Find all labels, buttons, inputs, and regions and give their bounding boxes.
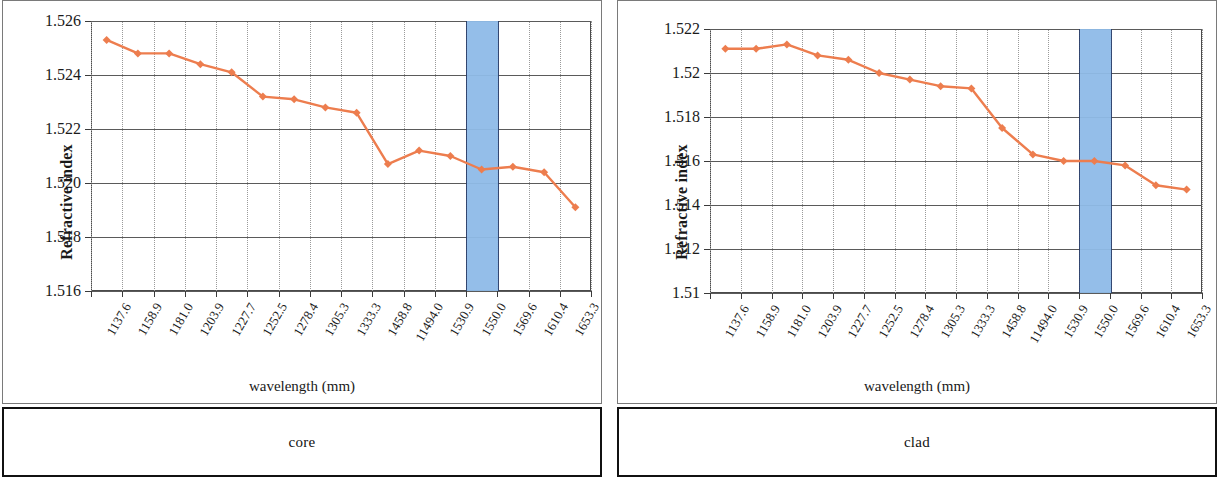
y-axis-tick-label: 1.518 [628, 108, 700, 126]
caption-label-clad: clad [904, 434, 930, 451]
x-axis-title-core: wavelength (mm) [3, 378, 601, 395]
data-point-marker [875, 69, 883, 77]
caption-label-core: core [288, 434, 315, 451]
x-axis-tick [1048, 293, 1049, 299]
data-point-marker [906, 76, 914, 84]
x-axis-tick [741, 293, 742, 299]
x-axis-tick [895, 293, 896, 299]
x-axis-tick [310, 291, 311, 297]
data-point-marker [814, 51, 822, 59]
vertical-gridline [1202, 29, 1203, 293]
x-axis-tick [372, 291, 373, 297]
x-axis-tick [1171, 293, 1172, 299]
x-axis-title-clad: wavelength (mm) [618, 378, 1216, 395]
x-axis-tick [560, 291, 561, 297]
x-axis-tick [216, 291, 217, 297]
data-point-marker [783, 40, 791, 48]
data-point-marker [721, 45, 729, 53]
data-point-marker [446, 152, 454, 160]
data-series-line [91, 21, 591, 291]
y-axis-tick-label: 1.52 [628, 64, 700, 82]
data-point-marker [478, 166, 486, 174]
plot-area-clad: 1.5221.521.5181.5161.5141.5121.511137.61… [710, 29, 1202, 293]
y-axis-tick-label: 1.512 [628, 240, 700, 258]
x-axis-tick [1079, 293, 1080, 299]
panel-core: Refractive index 1.5261.5241.5221.5201.5… [2, 0, 604, 481]
caption-cell-clad: clad [617, 407, 1217, 477]
x-axis-tick [122, 291, 123, 297]
x-axis-tick [1141, 293, 1142, 299]
panel-clad: Refractive index 1.5221.521.5181.5161.51… [617, 0, 1219, 481]
x-axis-tick [710, 293, 711, 299]
data-point-marker [509, 163, 517, 171]
data-point-marker [165, 49, 173, 57]
y-axis-tick-label: 1.516 [9, 282, 81, 300]
data-point-marker [134, 49, 142, 57]
y-axis-tick-label: 1.522 [628, 20, 700, 38]
caption-cell-core: core [2, 407, 602, 477]
x-axis-tick [956, 293, 957, 299]
x-axis-tick [185, 291, 186, 297]
vertical-gridline [591, 21, 592, 291]
x-axis-tick [279, 291, 280, 297]
x-axis-tick [591, 291, 592, 297]
data-point-marker [844, 56, 852, 64]
x-axis-tick [435, 291, 436, 297]
x-axis-tick [91, 291, 92, 297]
data-point-marker [415, 147, 423, 155]
data-series-line [710, 29, 1202, 293]
x-axis-tick [772, 293, 773, 299]
y-axis-tick-label: 1.51 [628, 284, 700, 302]
chart-core: Refractive index 1.5261.5241.5221.5201.5… [2, 0, 602, 404]
data-point-marker [290, 95, 298, 103]
data-point-marker [321, 103, 329, 111]
x-axis-tick [404, 291, 405, 297]
data-point-marker [752, 45, 760, 53]
y-axis-tick-label: 1.526 [9, 12, 81, 30]
y-axis-tick-label: 1.514 [628, 196, 700, 214]
y-axis-tick-label: 1.524 [9, 66, 81, 84]
y-axis-tick-label: 1.522 [9, 120, 81, 138]
y-axis-tick-label: 1.518 [9, 228, 81, 246]
x-axis-tick [154, 291, 155, 297]
x-axis-tick [1202, 293, 1203, 299]
x-axis-tick [833, 293, 834, 299]
figure-root: Refractive index 1.5261.5241.5221.5201.5… [0, 0, 1219, 481]
y-axis-tick-label: 1.516 [628, 152, 700, 170]
x-axis-tick [864, 293, 865, 299]
x-axis-tick [925, 293, 926, 299]
x-axis-tick [247, 291, 248, 297]
x-axis-tick [987, 293, 988, 299]
x-axis-tick [466, 291, 467, 297]
x-axis-tick [341, 291, 342, 297]
plot-area-core: 1.5261.5241.5221.5201.5181.5161137.61158… [91, 21, 591, 291]
x-axis-tick [529, 291, 530, 297]
x-axis-tick [497, 291, 498, 297]
data-point-marker [1183, 186, 1191, 194]
x-axis-tick [1110, 293, 1111, 299]
data-point-marker [196, 60, 204, 68]
data-point-marker [1090, 157, 1098, 165]
data-point-marker [103, 36, 111, 44]
chart-clad: Refractive index 1.5221.521.5181.5161.51… [617, 0, 1217, 404]
y-axis-tick-label: 1.520 [9, 174, 81, 192]
data-point-marker [1060, 157, 1068, 165]
x-axis-tick [1018, 293, 1019, 299]
data-point-marker [937, 82, 945, 90]
x-axis-tick [802, 293, 803, 299]
